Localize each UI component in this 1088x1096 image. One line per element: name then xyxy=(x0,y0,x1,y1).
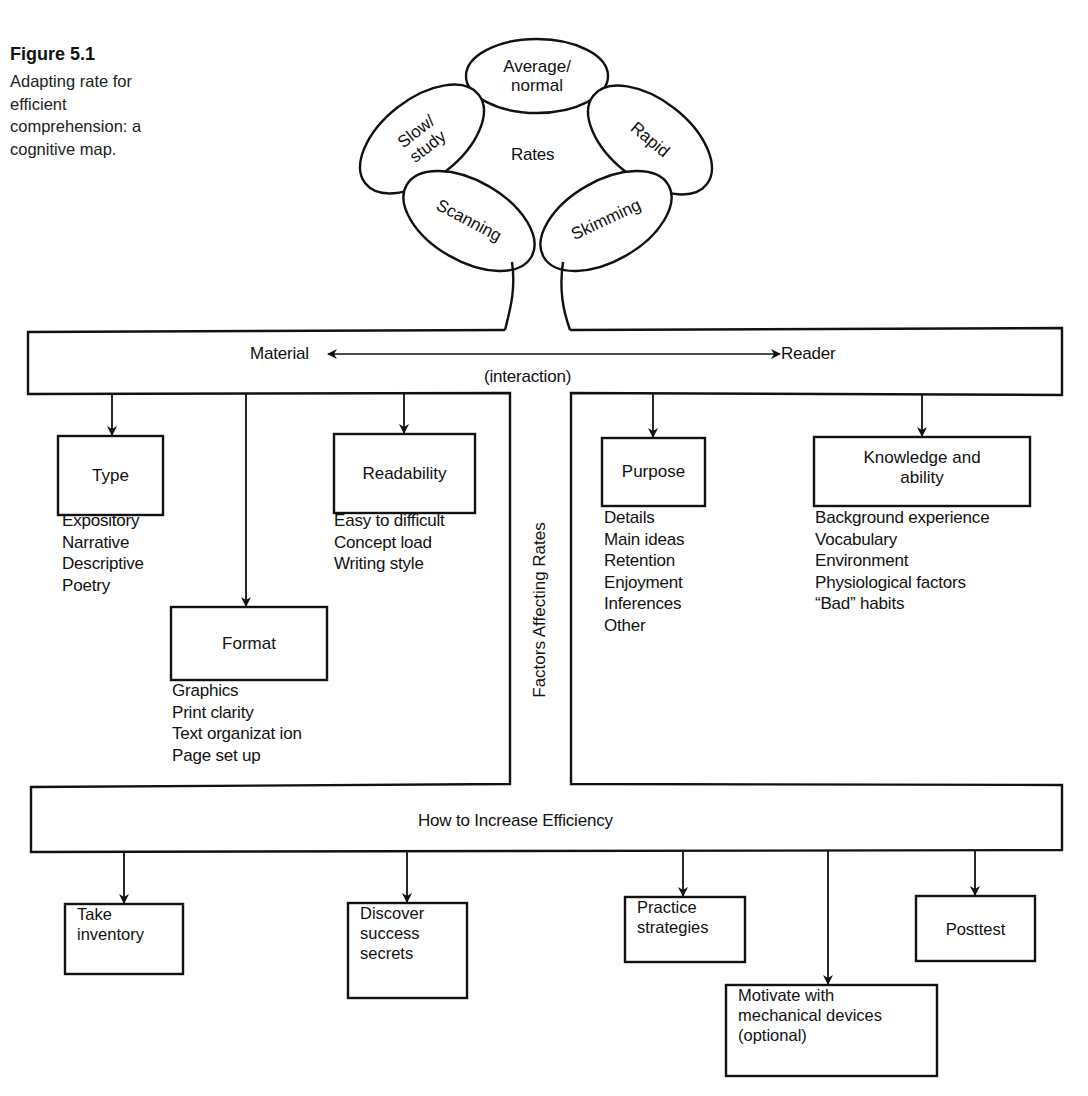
motivate-box-label: Motivate with mechanical devices (option… xyxy=(726,985,937,1076)
posttest-box-label: Posttest xyxy=(916,896,1035,961)
label-line: Take xyxy=(77,904,112,924)
list-item: Background experience xyxy=(815,507,989,529)
readability-box-label: Readability xyxy=(334,434,475,513)
list-item: Other xyxy=(604,615,684,637)
list-item: Retention xyxy=(604,550,684,572)
label-line: success xyxy=(360,923,420,943)
list-item: Page set up xyxy=(172,745,302,767)
list-item: Graphics xyxy=(172,680,302,702)
list-item: Easy to difficult xyxy=(334,510,445,532)
list-item: Text organizat ion xyxy=(172,723,302,745)
type-box-label: Type xyxy=(58,436,163,515)
list-item: “Bad” habits xyxy=(815,593,989,615)
list-item: Enjoyment xyxy=(604,572,684,594)
format-items: Graphics Print clarity Text organizat io… xyxy=(172,680,302,766)
knowledge-box-label: Knowledge and ability xyxy=(814,437,1030,499)
list-item: Concept load xyxy=(334,532,445,554)
rates-center-label: Rates xyxy=(511,144,554,166)
practice-box-label: Practice strategies xyxy=(625,897,745,962)
material-label: Material xyxy=(250,343,309,365)
purpose-items: Details Main ideas Retention Enjoyment I… xyxy=(604,507,684,636)
label-line: Posttest xyxy=(946,919,1006,939)
figure-label: Figure 5.1 xyxy=(10,44,95,65)
label-line: ability xyxy=(900,468,943,488)
format-box-label: Format xyxy=(171,607,327,680)
list-item: Narrative xyxy=(62,532,144,554)
label-line: strategies xyxy=(637,917,709,937)
discover-box-label: Discover success secrets xyxy=(348,903,467,998)
list-item: Main ideas xyxy=(604,529,684,551)
label-line: Discover xyxy=(360,903,424,923)
list-item: Writing style xyxy=(334,553,445,575)
list-item: Inferences xyxy=(604,593,684,615)
label-line: inventory xyxy=(77,924,144,944)
label-line: secrets xyxy=(360,943,413,963)
list-item: Poetry xyxy=(62,575,144,597)
list-item: Print clarity xyxy=(172,702,302,724)
interaction-label: (interaction) xyxy=(484,366,571,388)
label-line: Practice xyxy=(637,897,697,917)
efficiency-title: How to Increase Efficiency xyxy=(418,810,613,832)
label-line: Knowledge and xyxy=(863,448,980,468)
caption-line: comprehension: a xyxy=(10,115,141,138)
caption-line: Adapting rate for xyxy=(10,70,141,93)
label-line: (optional) xyxy=(738,1025,807,1045)
caption-line: efficient xyxy=(10,93,141,116)
inventory-box-label: Take inventory xyxy=(65,904,183,974)
label-line: Average/ xyxy=(487,57,587,76)
caption-line: cognitive map. xyxy=(10,138,141,161)
list-item: Descriptive xyxy=(62,553,144,575)
readability-items: Easy to difficult Concept load Writing s… xyxy=(334,510,445,575)
cognitive-map-figure: Figure 5.1 Adapting rate for efficient c… xyxy=(0,0,1088,1096)
purpose-box-label: Purpose xyxy=(602,438,705,506)
list-item: Environment xyxy=(815,550,989,572)
label-line: mechanical devices xyxy=(738,1005,882,1025)
knowledge-items: Background experience Vocabulary Environ… xyxy=(815,507,989,615)
label-line: normal xyxy=(487,76,587,95)
ellipse-label-average: Average/ normal xyxy=(487,57,587,95)
list-item: Vocabulary xyxy=(815,529,989,551)
label-line: Motivate with xyxy=(738,985,834,1005)
list-item: Expository xyxy=(62,510,144,532)
list-item: Physiological factors xyxy=(815,572,989,594)
figure-caption: Adapting rate for efficient comprehensio… xyxy=(10,70,141,160)
reader-label: Reader xyxy=(781,343,836,365)
factors-affecting-rates-label: Factors Affecting Rates xyxy=(530,510,550,710)
type-items: Expository Narrative Descriptive Poetry xyxy=(62,510,144,596)
list-item: Details xyxy=(604,507,684,529)
